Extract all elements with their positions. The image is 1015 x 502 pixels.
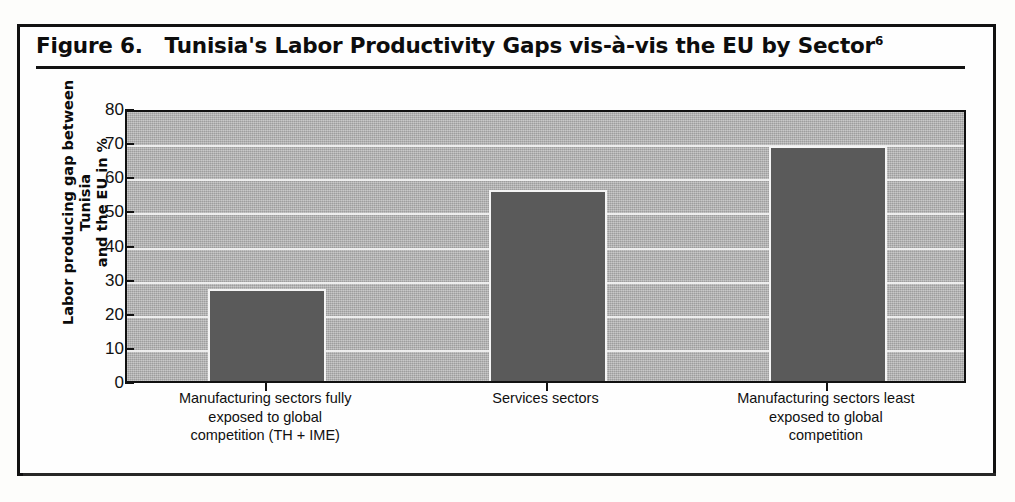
y-tick-mark	[125, 382, 134, 384]
figure-title-prefix: Figure 6.	[36, 33, 143, 58]
y-tick-mark	[125, 314, 134, 316]
y-tick-label: 60	[82, 168, 124, 188]
cut-off-caption	[150, 494, 620, 502]
y-tick-label: 10	[82, 339, 124, 359]
y-tick-mark	[125, 211, 134, 213]
x-axis-category-labels: Manufacturing sectors fullyexposed to gl…	[125, 389, 966, 459]
x-tick-mark	[546, 383, 548, 391]
plot-area	[125, 110, 966, 383]
y-tick-label: 20	[82, 305, 124, 325]
x-category-label: Manufacturing sectors leastexposed to gl…	[711, 389, 941, 445]
figure-title-text: Tunisia's Labor Productivity Gaps vis-à-…	[165, 33, 875, 58]
y-tick-label: 40	[82, 237, 124, 257]
figure-title: Figure 6. Tunisia's Labor Productivity G…	[36, 33, 966, 58]
figure-frame: Figure 6. Tunisia's Labor Productivity G…	[17, 24, 996, 476]
y-tick-label: 70	[82, 134, 124, 154]
y-tick-mark	[125, 246, 134, 248]
y-tick-mark	[125, 177, 134, 179]
y-tick-label: 0	[82, 373, 124, 393]
x-category-label: Services sectors	[431, 389, 661, 408]
bar	[489, 190, 607, 381]
x-tick-mark	[826, 383, 828, 391]
y-tick-label: 30	[82, 271, 124, 291]
title-divider	[36, 66, 965, 69]
x-tick-mark	[265, 383, 267, 391]
x-category-label-line: exposed to global	[208, 409, 322, 425]
y-tick-label: 80	[82, 100, 124, 120]
x-category-label-line: competition (TH + IME)	[190, 427, 339, 443]
x-category-label-line: Manufacturing sectors least	[737, 390, 914, 406]
bar	[769, 146, 887, 381]
y-tick-mark	[125, 280, 134, 282]
y-axis-tick-labels: 80706050403020100	[78, 110, 124, 383]
y-tick-label: 50	[82, 202, 124, 222]
x-category-label-line: competition	[789, 427, 863, 443]
x-category-label-line: exposed to global	[769, 409, 883, 425]
y-tick-mark	[125, 109, 134, 111]
x-category-label-line: Manufacturing sectors fully	[179, 390, 351, 406]
figure-title-footnote: 6	[875, 34, 883, 48]
x-category-label-line: Services sectors	[492, 390, 598, 406]
x-category-label: Manufacturing sectors fullyexposed to gl…	[150, 389, 380, 445]
bar	[208, 289, 326, 381]
y-tick-mark	[125, 143, 134, 145]
y-tick-mark	[125, 348, 134, 350]
